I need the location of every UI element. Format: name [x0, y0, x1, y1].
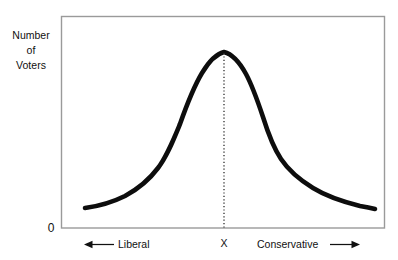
- y-axis-label-line2: of: [27, 44, 36, 56]
- y-axis-label-line3: Voters: [16, 59, 46, 71]
- plot-area-frame: [62, 17, 385, 229]
- chart-figure: Number of Voters 0 X Liberal Conservativ…: [0, 0, 398, 260]
- left-spectrum-label: Liberal: [118, 238, 150, 250]
- x-axis-median-tick: X: [220, 237, 227, 249]
- y-axis-label-line1: Number: [12, 29, 50, 41]
- y-axis-zero-tick: 0: [48, 221, 55, 235]
- bell-curve-chart: Number of Voters 0 X Liberal Conservativ…: [0, 0, 398, 260]
- right-spectrum-label: Conservative: [257, 238, 318, 250]
